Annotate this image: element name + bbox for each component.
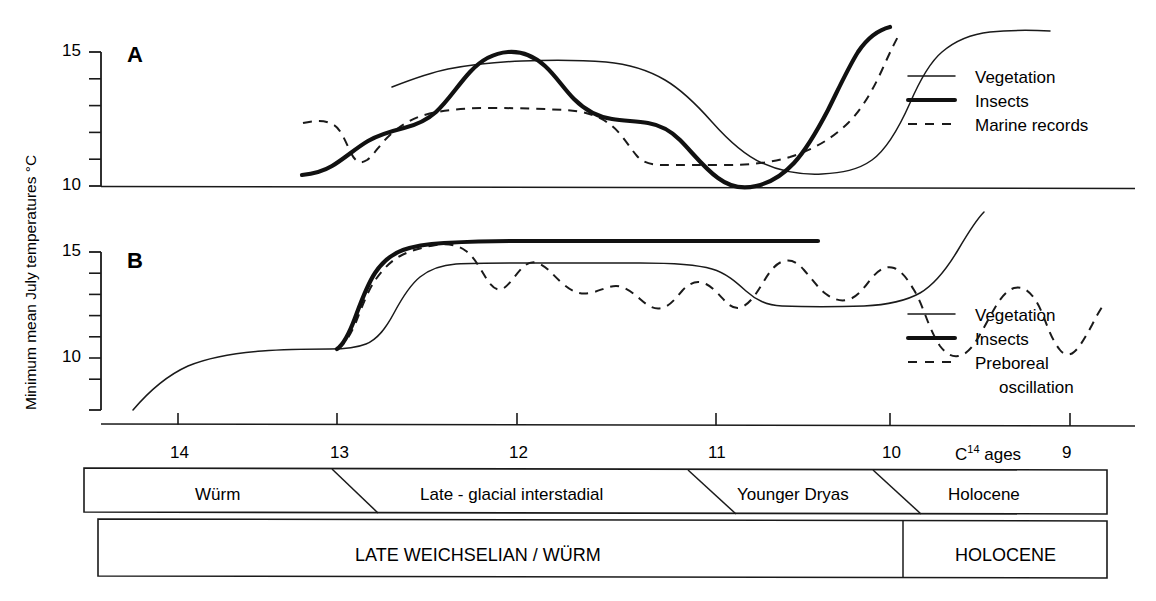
stratigraphy-bar-upper xyxy=(84,468,1107,514)
legend-a-swatches xyxy=(908,76,955,124)
panel-a-curve-vegetation xyxy=(392,30,1050,174)
strat-divider-wurm-lateglacial xyxy=(332,469,378,513)
panel-a-curves xyxy=(302,27,1050,187)
panel-b-curves xyxy=(133,212,1104,410)
panel-a-curve-insects xyxy=(302,27,890,187)
panel-b-curve-preboreal-oscillation xyxy=(338,244,1104,356)
stratigraphy-bar-lower xyxy=(98,519,1107,578)
panel-b-curve-insects xyxy=(337,241,818,349)
panel-a-curve-marine-records xyxy=(303,33,900,165)
strat-divider-lateglacial-youngerdryas xyxy=(688,470,736,514)
figure-root: Minimum mean July temperatures °C A B 15… xyxy=(0,0,1156,601)
legend-b-swatches xyxy=(908,314,955,362)
chart-vector-layer xyxy=(0,0,1156,601)
strat-divider-youngerdryas-holocene xyxy=(873,470,921,514)
